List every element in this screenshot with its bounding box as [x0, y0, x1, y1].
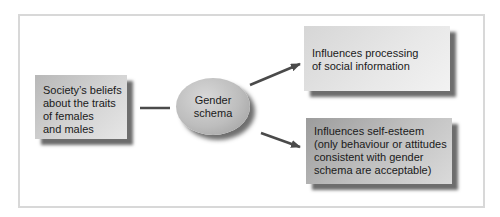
box-line: Society’s beliefs — [43, 84, 127, 97]
box-line: schema are acceptable) — [314, 164, 452, 177]
box-line: Influences processing — [312, 47, 450, 60]
box-line: and males — [43, 123, 127, 136]
node-line: Gender — [195, 94, 232, 107]
box-line: consistent with gender — [314, 151, 452, 164]
box-line: of females — [43, 110, 127, 123]
society-beliefs-box: Society’s beliefs about the traits of fe… — [35, 75, 127, 139]
node-line: schema — [194, 107, 233, 120]
gender-schema-node: Gender schema — [176, 78, 250, 135]
processing-outcome-box: Influences processing of social informat… — [304, 26, 450, 91]
self-esteem-outcome-box: Influences self-esteem (only behaviour o… — [306, 118, 452, 184]
box-line: Influences self-esteem — [314, 125, 452, 138]
box-line: about the traits — [43, 97, 127, 110]
box-line: of social information — [312, 60, 450, 73]
box-line: (only behaviour or attitudes — [314, 138, 452, 151]
